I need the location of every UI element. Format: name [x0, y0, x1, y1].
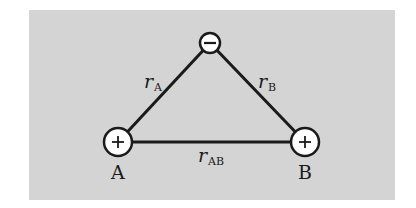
bond-line-rA: [118, 43, 210, 142]
distance-sub: A: [154, 81, 162, 94]
distance-sub: AB: [208, 155, 224, 168]
distance-label-rB: rB: [258, 72, 276, 91]
point-label-a: A: [111, 163, 125, 182]
bond-line-rB: [210, 43, 305, 142]
distance-var: r: [198, 144, 207, 166]
distance-label-rAB: rAB: [198, 146, 224, 165]
distance-var: r: [144, 70, 153, 92]
distance-sub: B: [268, 81, 276, 94]
distance-var: r: [258, 70, 267, 92]
positive-ion-b-icon: [291, 128, 319, 156]
point-label-b: B: [298, 163, 312, 182]
positive-ion-a-icon: [104, 128, 132, 156]
negative-ion-icon: [200, 33, 220, 53]
charge-triangle: [0, 0, 416, 208]
distance-label-rA: rA: [144, 72, 162, 91]
